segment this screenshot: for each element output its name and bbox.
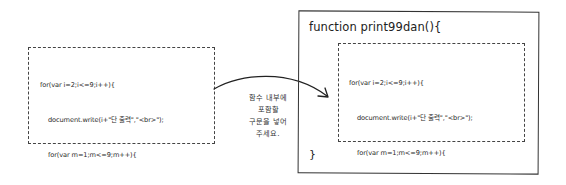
note-line: 함수 내부에 [233, 92, 303, 104]
code-line: document.write(i+"단 출력","<br>"); [349, 113, 514, 125]
function-closing-brace: } [309, 148, 316, 161]
function-header: function print99dan(){ [309, 20, 441, 34]
code-line: for(var i=2;i<=9;i++){ [349, 78, 514, 90]
note-line: 포함할 [233, 104, 303, 116]
instruction-note: 함수 내부에 포함할 구문을 넣어 주세요. [233, 92, 303, 140]
note-line: 주세요. [233, 128, 303, 140]
function-body-code: for(var i=2;i<=9;i++){ document.write(i+… [349, 55, 514, 185]
code-line: for(var m=1;m<=9;m++){ [349, 148, 514, 160]
note-line: 구문을 넣어 [233, 116, 303, 128]
code-line: document.write(i+"*"+m+"="+(i*m),"<br>")… [349, 183, 514, 185]
